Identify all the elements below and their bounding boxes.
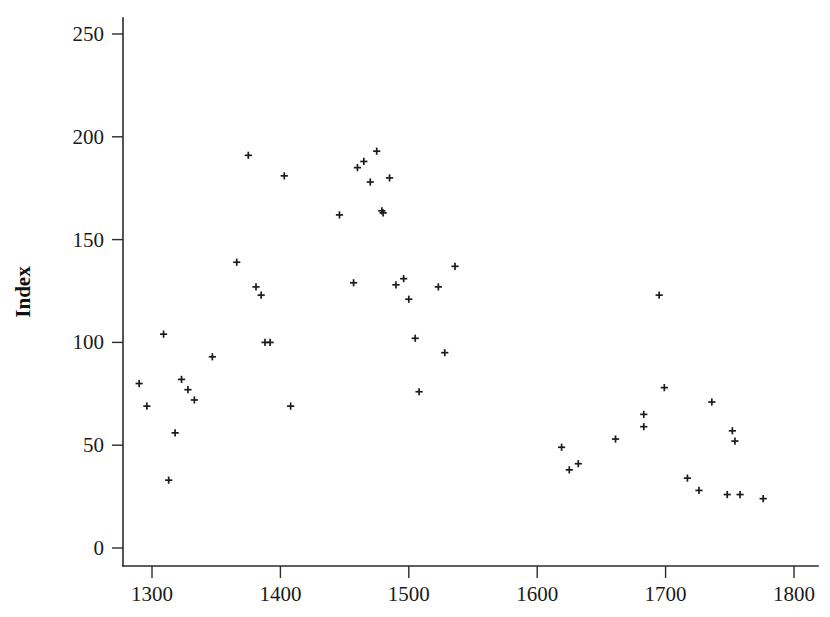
data-point bbox=[233, 259, 240, 266]
x-tick-1600: 1600 bbox=[516, 566, 558, 606]
data-point bbox=[566, 466, 573, 473]
data-point bbox=[724, 491, 731, 498]
y-tick-label: 250 bbox=[73, 22, 105, 46]
data-point bbox=[165, 477, 172, 484]
y-tick-label: 200 bbox=[73, 125, 105, 149]
data-point bbox=[281, 172, 288, 179]
data-point bbox=[354, 164, 361, 171]
data-point bbox=[400, 275, 407, 282]
x-tick-label: 1400 bbox=[259, 582, 301, 606]
data-point bbox=[558, 444, 565, 451]
data-point bbox=[640, 423, 647, 430]
data-point bbox=[191, 396, 198, 403]
y-tick-label: 0 bbox=[94, 536, 105, 560]
data-point bbox=[412, 335, 419, 342]
data-point bbox=[612, 435, 619, 442]
data-point bbox=[245, 152, 252, 159]
data-point bbox=[184, 386, 191, 393]
data-point bbox=[267, 339, 274, 346]
data-point bbox=[435, 283, 442, 290]
x-tick-1800: 1800 bbox=[773, 566, 815, 606]
data-point bbox=[178, 376, 185, 383]
data-point bbox=[360, 158, 367, 165]
y-tick-50: 50 bbox=[83, 433, 123, 457]
data-point bbox=[729, 427, 736, 434]
x-tick-1300: 1300 bbox=[131, 566, 173, 606]
data-point bbox=[373, 148, 380, 155]
data-point bbox=[258, 292, 265, 299]
data-point bbox=[415, 388, 422, 395]
data-point bbox=[252, 283, 259, 290]
data-point bbox=[736, 491, 743, 498]
scatter-plot-figure: 050100150200250 130014001500160017001800… bbox=[0, 0, 830, 617]
data-point bbox=[350, 279, 357, 286]
x-tick-label: 1700 bbox=[645, 582, 687, 606]
y-axis-ticks: 050100150200250 bbox=[73, 22, 124, 560]
data-point bbox=[656, 292, 663, 299]
plot-canvas: 050100150200250 130014001500160017001800… bbox=[0, 0, 830, 617]
data-point bbox=[143, 403, 150, 410]
x-tick-1400: 1400 bbox=[259, 566, 301, 606]
x-axis-ticks: 130014001500160017001800 bbox=[131, 566, 815, 606]
data-point bbox=[451, 263, 458, 270]
data-point bbox=[172, 429, 179, 436]
data-point bbox=[209, 353, 216, 360]
data-point bbox=[136, 380, 143, 387]
x-tick-label: 1300 bbox=[131, 582, 173, 606]
data-point bbox=[695, 487, 702, 494]
y-tick-200: 200 bbox=[73, 125, 124, 149]
data-point bbox=[760, 495, 767, 502]
y-axis-title: Index bbox=[11, 266, 35, 318]
x-tick-label: 1800 bbox=[773, 582, 815, 606]
x-tick-label: 1600 bbox=[516, 582, 558, 606]
y-tick-0: 0 bbox=[94, 536, 124, 560]
data-point bbox=[336, 211, 343, 218]
data-point bbox=[287, 403, 294, 410]
y-tick-100: 100 bbox=[73, 330, 124, 354]
y-tick-label: 100 bbox=[73, 330, 105, 354]
x-tick-1500: 1500 bbox=[388, 566, 430, 606]
data-point bbox=[708, 398, 715, 405]
data-point bbox=[684, 474, 691, 481]
x-tick-1700: 1700 bbox=[645, 566, 687, 606]
data-point-layer bbox=[136, 148, 767, 503]
data-point bbox=[731, 437, 738, 444]
y-tick-label: 150 bbox=[73, 228, 105, 252]
y-tick-250: 250 bbox=[73, 22, 124, 46]
data-point bbox=[392, 281, 399, 288]
data-point bbox=[367, 178, 374, 185]
y-tick-label: 50 bbox=[83, 433, 104, 457]
axes-group bbox=[123, 18, 818, 566]
data-point bbox=[575, 460, 582, 467]
data-point bbox=[405, 296, 412, 303]
data-point bbox=[441, 349, 448, 356]
data-point bbox=[160, 331, 167, 338]
y-tick-150: 150 bbox=[73, 228, 124, 252]
data-point bbox=[386, 174, 393, 181]
x-tick-label: 1500 bbox=[388, 582, 430, 606]
data-point bbox=[661, 384, 668, 391]
data-point bbox=[640, 411, 647, 418]
